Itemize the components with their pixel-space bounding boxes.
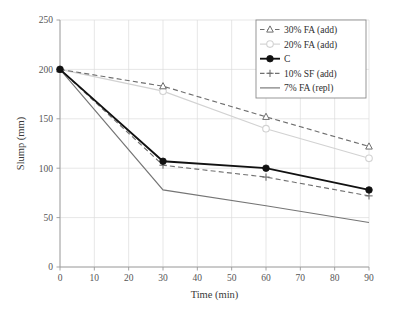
x-tick-label: 40 — [193, 273, 203, 283]
data-point-marker-plus — [262, 173, 269, 180]
data-point-marker-circle-open — [267, 41, 274, 48]
x-tick-label: 30 — [158, 273, 168, 283]
x-tick-label: 60 — [261, 273, 271, 283]
data-point-marker-triangle — [366, 143, 373, 149]
data-point-marker-circle-open — [366, 155, 373, 162]
x-tick-label: 0 — [58, 273, 63, 283]
y-tick-label: 50 — [44, 213, 54, 223]
legend-label: 10% SF (add) — [284, 69, 337, 80]
x-axis-title: Time (min) — [191, 289, 239, 301]
data-point-marker-circle-filled — [267, 55, 274, 62]
legend: 30% FA (add)20% FA (add)C10% SF (add)7% … — [256, 20, 366, 98]
x-tick-label: 80 — [330, 273, 340, 283]
legend-label: 20% FA (add) — [284, 40, 337, 51]
data-point-marker-circle-filled — [57, 66, 64, 73]
y-axis-title: Slump (mm) — [15, 116, 27, 170]
legend-label: 30% FA (add) — [284, 25, 337, 36]
y-tick-label: 250 — [39, 15, 54, 25]
data-point-marker-circle-open — [263, 125, 270, 132]
y-tick-label: 200 — [39, 65, 54, 75]
y-tick-label: 0 — [48, 262, 53, 272]
legend-label: 7% FA (repl) — [284, 83, 333, 94]
y-tick-label: 150 — [39, 114, 54, 124]
x-tick-label: 20 — [124, 273, 134, 283]
slump-vs-time-chart: 0501001502002500102030405060708090Time (… — [0, 0, 396, 311]
x-tick-label: 70 — [296, 273, 306, 283]
data-point-marker-circle-filled — [263, 165, 270, 172]
x-tick-label: 90 — [364, 273, 374, 283]
data-point-marker-circle-filled — [366, 187, 373, 194]
y-tick-label: 100 — [39, 164, 54, 174]
data-point-marker-circle-filled — [160, 158, 167, 165]
x-tick-label: 50 — [227, 273, 237, 283]
chart-canvas: 0501001502002500102030405060708090Time (… — [0, 0, 396, 311]
legend-label: C — [284, 54, 290, 64]
x-tick-label: 10 — [90, 273, 100, 283]
